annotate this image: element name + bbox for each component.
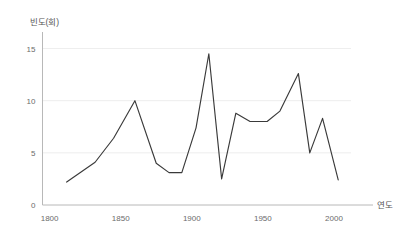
y-tick-label-10: 10 — [27, 97, 36, 106]
x-tick-label-1800: 1800 — [41, 214, 59, 223]
x-tick-label-1950: 1950 — [254, 214, 272, 223]
line-chart: 051015 18001850190019502000 빈도(회) 연도 — [0, 0, 415, 246]
y-axis-label: 빈도(회) — [30, 17, 60, 27]
y-tick-label-0: 0 — [31, 201, 36, 210]
y-tick-label-5: 5 — [31, 149, 36, 158]
x-axis-tick-labels: 18001850190019502000 — [41, 214, 344, 223]
y-axis-tick-labels: 051015 — [27, 45, 36, 210]
data-series — [67, 54, 339, 182]
x-tick-label-1850: 1850 — [112, 214, 130, 223]
chart-canvas: 051015 18001850190019502000 빈도(회) 연도 — [0, 0, 415, 246]
y-tick-label-15: 15 — [27, 45, 36, 54]
x-tick-label-2000: 2000 — [325, 214, 343, 223]
gridlines — [43, 49, 352, 153]
x-axis-label: 연도 — [377, 200, 393, 210]
series-line-0 — [67, 54, 339, 182]
x-tick-label-1900: 1900 — [183, 214, 201, 223]
